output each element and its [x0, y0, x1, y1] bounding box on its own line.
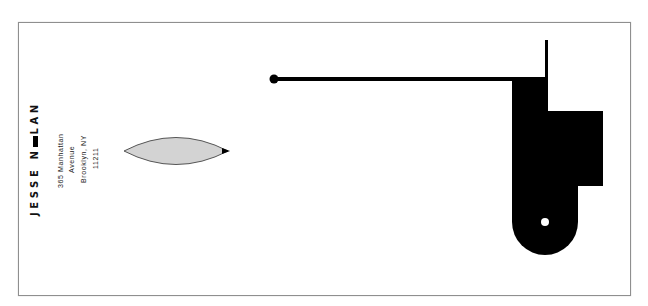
hole-icon [541, 218, 549, 226]
wide-block [512, 111, 603, 186]
vertical-line [545, 40, 548, 81]
horizontal-bar [274, 77, 548, 81]
card-graphics [0, 0, 648, 306]
abstract-black-form [270, 40, 604, 255]
lens-icon [124, 138, 230, 165]
upper-block [512, 79, 548, 113]
